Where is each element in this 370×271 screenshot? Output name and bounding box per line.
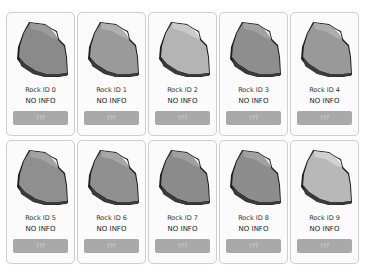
- rock-card[interactable]: Rock ID 0 NO INFO ???: [6, 12, 75, 136]
- rock-info: NO INFO: [220, 225, 287, 233]
- rock-card[interactable]: Rock ID 8 NO INFO ???: [219, 140, 288, 264]
- rock-title: Rock ID 5: [7, 214, 74, 222]
- rock-card[interactable]: Rock ID 2 NO INFO ???: [148, 12, 217, 136]
- rock-image: [86, 19, 140, 81]
- rock-title: Rock ID 0: [7, 86, 74, 94]
- rock-grid: Rock ID 0 NO INFO ??? Rock ID 1 NO INFO …: [6, 12, 359, 264]
- rock-action-button[interactable]: ???: [226, 111, 281, 125]
- rock-title: Rock ID 2: [149, 86, 216, 94]
- rock-action-button[interactable]: ???: [84, 111, 139, 125]
- rock-info: NO INFO: [149, 97, 216, 105]
- rock-info: NO INFO: [220, 97, 287, 105]
- rock-action-button[interactable]: ???: [226, 239, 281, 253]
- rock-info: NO INFO: [7, 225, 74, 233]
- rock-action-button[interactable]: ???: [155, 239, 210, 253]
- rock-card[interactable]: Rock ID 7 NO INFO ???: [148, 140, 217, 264]
- rock-info: NO INFO: [291, 97, 358, 105]
- rock-info: NO INFO: [7, 97, 74, 105]
- rock-info: NO INFO: [78, 225, 145, 233]
- rock-info: NO INFO: [149, 225, 216, 233]
- rock-title: Rock ID 9: [291, 214, 358, 222]
- rock-action-button[interactable]: ???: [297, 239, 352, 253]
- rock-image: [15, 147, 69, 209]
- rock-action-button[interactable]: ???: [155, 111, 210, 125]
- rock-image: [157, 19, 211, 81]
- rock-card[interactable]: Rock ID 3 NO INFO ???: [219, 12, 288, 136]
- rock-title: Rock ID 3: [220, 86, 287, 94]
- rock-card[interactable]: Rock ID 4 NO INFO ???: [290, 12, 359, 136]
- rock-title: Rock ID 1: [78, 86, 145, 94]
- rock-card[interactable]: Rock ID 1 NO INFO ???: [77, 12, 146, 136]
- rock-title: Rock ID 6: [78, 214, 145, 222]
- rock-image: [15, 19, 69, 81]
- rock-info: NO INFO: [291, 225, 358, 233]
- rock-action-button[interactable]: ???: [297, 111, 352, 125]
- rock-card[interactable]: Rock ID 9 NO INFO ???: [290, 140, 359, 264]
- rock-action-button[interactable]: ???: [84, 239, 139, 253]
- rock-info: NO INFO: [78, 97, 145, 105]
- rock-title: Rock ID 8: [220, 214, 287, 222]
- rock-image: [228, 147, 282, 209]
- rock-title: Rock ID 4: [291, 86, 358, 94]
- rock-image: [299, 19, 353, 81]
- rock-image: [86, 147, 140, 209]
- rock-action-button[interactable]: ???: [13, 239, 68, 253]
- rock-action-button[interactable]: ???: [13, 111, 68, 125]
- rock-card[interactable]: Rock ID 5 NO INFO ???: [6, 140, 75, 264]
- rock-card[interactable]: Rock ID 6 NO INFO ???: [77, 140, 146, 264]
- rock-image: [299, 147, 353, 209]
- rock-image: [228, 19, 282, 81]
- rock-image: [157, 147, 211, 209]
- rock-title: Rock ID 7: [149, 214, 216, 222]
